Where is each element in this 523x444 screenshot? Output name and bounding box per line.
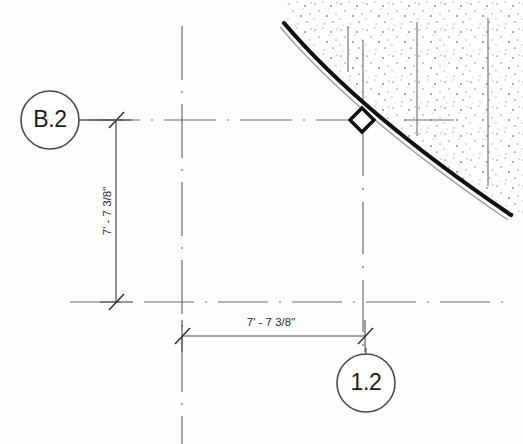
cad-drawing-canvas: 7' - 7 3/8" 7' - 7 3/8" B.2 1.2 bbox=[0, 0, 523, 444]
architectural-drawing-sheet: 7' - 7 3/8" 7' - 7 3/8" B.2 1.2 bbox=[0, 0, 523, 444]
vertical-dimension: 7' - 7 3/8" bbox=[100, 112, 132, 310]
vertical-dimension-label: 7' - 7 3/8" bbox=[101, 187, 113, 235]
intersection-diamond-marker bbox=[350, 108, 374, 132]
grid-bubble-1-2[interactable]: 1.2 bbox=[337, 348, 395, 412]
grid-bubble-1-2-label: 1.2 bbox=[350, 369, 381, 395]
horizontal-dimension: 7' - 7 3/8" bbox=[175, 316, 373, 352]
grid-bubble-b2-label: B.2 bbox=[33, 106, 67, 132]
stippled-fill-region bbox=[260, 0, 523, 225]
horizontal-dimension-label: 7' - 7 3/8" bbox=[247, 316, 295, 328]
grid-bubble-b2[interactable]: B.2 bbox=[21, 91, 124, 149]
